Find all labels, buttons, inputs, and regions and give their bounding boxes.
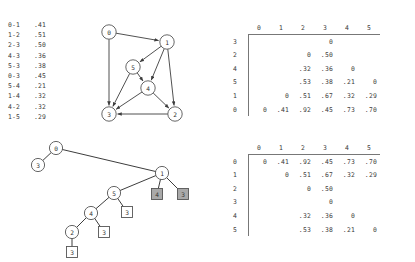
tree-node-1: 1 (155, 166, 168, 179)
edge-list-row: 0-1.41 (8, 20, 70, 30)
edge-pair: 1-2 (8, 30, 34, 40)
tree-leaf-3: 3 (99, 227, 110, 238)
matrix-cell (248, 76, 270, 90)
matrix-cell: .32 (292, 210, 314, 224)
matrix-cell: 0 (292, 183, 314, 197)
graph-arc-0-1 (116, 33, 158, 40)
tree-node-label: 1 (160, 170, 164, 177)
tree-node-5: 5 (107, 186, 120, 199)
matrix-cell (336, 49, 358, 63)
matrix-corner (232, 22, 248, 36)
graph-arc-4-3 (116, 92, 142, 109)
matrix-cell (248, 49, 270, 63)
matrix-cell (336, 196, 358, 210)
matrix-cell (292, 196, 314, 210)
graph-node-5: 5 (126, 60, 140, 74)
matrix-cell (358, 36, 380, 50)
tree-nodes: 03154243333 (31, 141, 188, 257)
tree-node-label: 0 (54, 145, 58, 152)
matrix-cell: .36 (314, 63, 336, 77)
matrix-cell: 0 (314, 196, 336, 210)
matrix-cell: 0 (292, 49, 314, 63)
matrix-cell (292, 36, 314, 50)
matrix-cell (248, 169, 270, 183)
edge-weight: .51 (34, 30, 56, 40)
matrix-cell (270, 76, 292, 90)
matrix-cell: .41 (270, 156, 292, 170)
graph-node-label: 4 (146, 85, 150, 92)
matrix-cell: .45 (314, 156, 336, 170)
matrix-lower: 01234500.41.92.45.73.7010.51.67.32.2920.… (232, 142, 380, 237)
matrix-cell: .50 (314, 183, 336, 197)
tree-leaf-label: 3 (125, 209, 129, 216)
matrix-cell (270, 49, 292, 63)
matrix-cell: .73 (336, 156, 358, 170)
matrix-cell (358, 183, 380, 197)
matrix-cell: .32 (292, 63, 314, 77)
matrix-cell (270, 210, 292, 224)
matrix-cell (270, 63, 292, 77)
tree-leaf-3: 3 (178, 189, 189, 200)
matrix-label-rule (248, 34, 249, 116)
graph-arc-1-5 (140, 46, 161, 62)
matrix-row-header: 0 (232, 104, 248, 118)
tree-leaf-label: 3 (102, 229, 106, 236)
edge-list-row: 1-4.32 (8, 91, 70, 101)
matrix-cell: 0 (336, 210, 358, 224)
tree-node-label: 2 (70, 229, 74, 236)
matrix-cell (248, 224, 270, 238)
matrix-cell: .45 (314, 104, 336, 118)
matrix-cell: .53 (292, 76, 314, 90)
matrix-cell: .38 (314, 76, 336, 90)
graph-node-1: 1 (160, 35, 174, 49)
matrix-cell: 0 (248, 156, 270, 170)
tree-leaf-3: 3 (67, 247, 78, 258)
edge-list: 0-1.411-2.512-3.504-3.365-3.380-3.455-4.… (8, 20, 70, 122)
matrix-grid: 01234500.41.92.45.73.7010.51.67.32.2920.… (232, 142, 380, 237)
edge-pair: 4-3 (8, 51, 34, 61)
matrix-cell (358, 63, 380, 77)
tree-node-label: 5 (112, 190, 116, 197)
tree-leaf-3: 3 (122, 207, 133, 218)
matrix-cell (358, 210, 380, 224)
matrix-cell: .67 (314, 90, 336, 104)
edge-weight: .29 (34, 112, 56, 122)
matrix-cell (270, 36, 292, 50)
edge-weight: .41 (34, 20, 56, 30)
tree-leaf-4: 4 (152, 189, 163, 200)
matrix-upper: 0123453020.504.32.3605.53.38.21010.51.67… (232, 22, 380, 117)
matrix-row-header: 1 (232, 90, 248, 104)
graph-node-label: 3 (107, 111, 111, 118)
tree-leaf-label: 3 (181, 191, 185, 198)
edge-list-row: 1-5.29 (8, 112, 70, 122)
edge-list-row: 0-3.45 (8, 71, 70, 81)
edge-list-row: 4-3.36 (8, 51, 70, 61)
matrix-cell (248, 183, 270, 197)
matrix-cell (336, 36, 358, 50)
directed-graph: 015432 (86, 22, 204, 128)
matrix-cell: .67 (314, 169, 336, 183)
matrix-cell (248, 90, 270, 104)
edge-pair: 2-3 (8, 40, 34, 50)
edge-weight: .50 (34, 40, 56, 50)
graph-arc-1-2 (168, 49, 174, 105)
matrix-cell: .51 (292, 90, 314, 104)
edge-pair: 0-3 (8, 71, 34, 81)
edge-weight: .45 (34, 71, 56, 81)
edge-list-row: 4-2.32 (8, 102, 70, 112)
edge-pair: 5-3 (8, 61, 34, 71)
matrix-cell (248, 63, 270, 77)
tree-links (38, 148, 183, 252)
matrix-cell: 0 (358, 76, 380, 90)
edge-weight: .32 (34, 91, 56, 101)
matrix-row-header: 2 (232, 49, 248, 63)
graph-node-label: 2 (173, 111, 177, 118)
matrix-row-header: 0 (232, 156, 248, 170)
graph-node-label: 1 (165, 39, 169, 46)
matrix-row-header: 4 (232, 210, 248, 224)
matrix-cell: .29 (358, 90, 380, 104)
graph-arc-1-4 (151, 49, 164, 80)
matrix-cell: 0 (336, 63, 358, 77)
edge-pair: 4-2 (8, 102, 34, 112)
matrix-cell (270, 224, 292, 238)
